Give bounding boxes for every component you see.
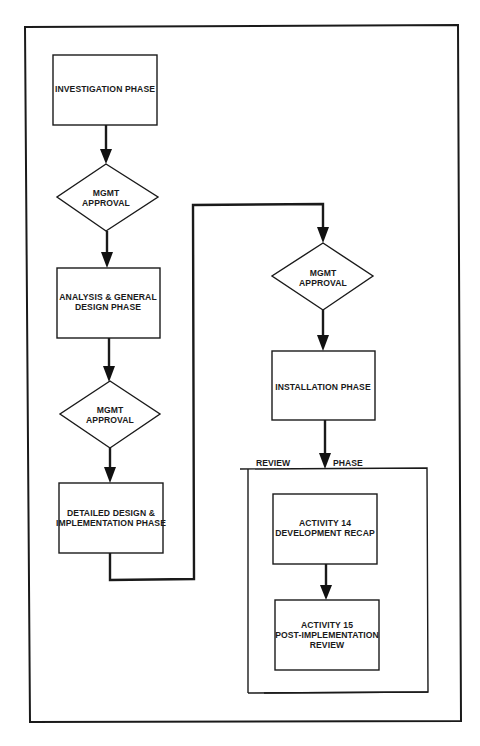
node-label: INSTALLATION PHASE <box>275 382 371 392</box>
node-label: DETAILED DESIGN & <box>67 508 155 518</box>
node-label: APPROVAL <box>82 198 130 208</box>
node-label: IMPLEMENTATION PHASE <box>56 518 166 528</box>
group-label-review: REVIEW <box>256 458 291 468</box>
node-label: MGMT <box>97 405 124 415</box>
node-mgmt-approval-3: MGMT APPROVAL <box>272 243 373 310</box>
node-investigation-phase: INVESTIGATION PHASE <box>53 55 157 125</box>
node-label: APPROVAL <box>299 278 347 288</box>
arrow-approval2-to-detailed <box>104 448 116 483</box>
arrow-analysis-to-approval2 <box>103 338 115 382</box>
node-mgmt-approval-1: MGMT APPROVAL <box>57 164 158 231</box>
node-label: REVIEW <box>310 640 345 650</box>
arrow-activity14-to-activity15 <box>320 564 332 600</box>
node-label: APPROVAL <box>86 415 134 425</box>
group-label-phase: PHASE <box>333 458 363 468</box>
node-label: INVESTIGATION PHASE <box>55 84 155 94</box>
node-label: ACTIVITY 14 <box>299 518 351 528</box>
outer-frame <box>25 25 461 722</box>
node-analysis-general-design-phase: ANALYSIS & GENERAL DESIGN PHASE <box>57 268 160 338</box>
node-label: MGMT <box>93 188 120 198</box>
arrow-installation-to-review-phase <box>319 420 331 469</box>
arrow-investigation-to-approval1 <box>100 125 112 164</box>
flowchart-diagram: INVESTIGATION PHASE MGMT APPROVAL ANALYS… <box>0 0 480 746</box>
node-label: DESIGN PHASE <box>75 302 141 312</box>
node-label: MGMT <box>310 268 337 278</box>
node-activity-15-post-implementation-review: ACTIVITY 15 POST-IMPLEMENTATION REVIEW <box>275 600 379 670</box>
arrow-approval1-to-analysis <box>101 231 113 268</box>
node-installation-phase: INSTALLATION PHASE <box>272 351 375 420</box>
node-activity-14-development-recap: ACTIVITY 14 DEVELOPMENT RECAP <box>273 494 377 564</box>
node-label: DEVELOPMENT RECAP <box>275 528 375 538</box>
node-label: ACTIVITY 15 <box>301 620 353 630</box>
node-detailed-design-implementation-phase: DETAILED DESIGN & IMPLEMENTATION PHASE <box>56 483 166 553</box>
node-label: ANALYSIS & GENERAL <box>59 292 156 302</box>
arrow-approval3-to-installation <box>317 310 329 351</box>
node-mgmt-approval-2: MGMT APPROVAL <box>60 381 160 448</box>
node-label: POST-IMPLEMENTATION <box>275 630 379 640</box>
